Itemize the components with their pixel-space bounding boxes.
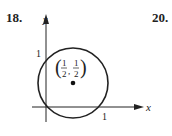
svg-text:1: 1 [74, 58, 79, 68]
x-tick-label: 1 [102, 111, 107, 122]
svg-text:2: 2 [74, 69, 79, 79]
x-axis-label: x [145, 101, 151, 113]
svg-text:2: 2 [62, 69, 67, 79]
circle-graph: y x 1 1 ( 1 2 , 1 2 ) [0, 0, 172, 136]
y-tick-label: 1 [36, 48, 41, 59]
x-axis-arrow-icon [134, 104, 144, 110]
center-point [71, 81, 76, 86]
svg-text:(: ( [55, 56, 62, 79]
center-coordinate-label: ( 1 2 , 1 2 ) [55, 56, 87, 79]
svg-text:,: , [68, 66, 70, 76]
svg-text:): ) [80, 56, 87, 79]
y-axis-label: y [42, 14, 48, 25]
svg-text:1: 1 [62, 58, 67, 68]
